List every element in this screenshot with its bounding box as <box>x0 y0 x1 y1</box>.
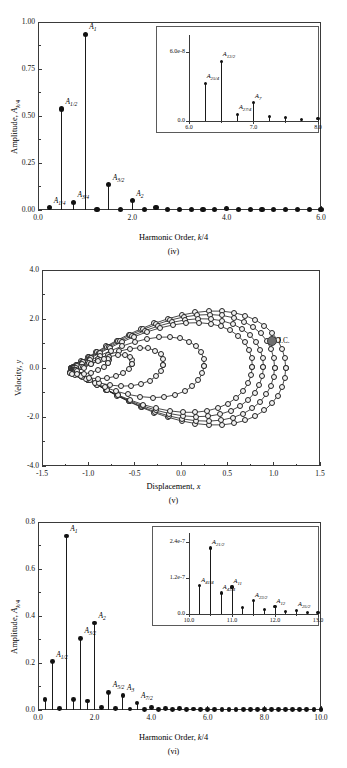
orbit-marker <box>81 371 87 377</box>
peak-label: A1/2 <box>56 650 68 660</box>
peak-label: A13/2 <box>223 50 235 59</box>
inset-x-tick-label: 7.0 <box>242 124 266 130</box>
y-tick-label: 4.0 <box>16 265 39 274</box>
y-tick <box>38 69 42 70</box>
data-point <box>142 707 147 712</box>
peak-label: A1 <box>70 524 77 534</box>
peak-label: A1 <box>89 22 96 32</box>
data-point <box>163 706 168 711</box>
orbit-marker <box>115 352 121 358</box>
inset-x-tick-label: 11.0 <box>220 617 244 623</box>
inset-stem <box>221 61 222 121</box>
x-tick-label: 0.0 <box>167 469 195 478</box>
initial-condition-marker <box>267 336 277 346</box>
stem <box>52 662 53 710</box>
peak-label: A11 <box>234 577 242 586</box>
orbit-marker <box>137 345 143 351</box>
orbit-marker <box>158 368 164 374</box>
orbit-marker <box>206 418 212 424</box>
orbit-marker <box>201 356 207 362</box>
inset-stem <box>253 601 254 615</box>
data-point <box>149 705 154 710</box>
orbit-marker <box>196 320 202 326</box>
peak-label: A21/2 <box>212 538 224 547</box>
orbit-marker <box>193 343 199 349</box>
orbit-marker <box>230 415 236 421</box>
orbit-marker <box>250 324 256 330</box>
orbit-marker <box>249 355 255 361</box>
inset-y-tick-label: 2.4e-7 <box>156 538 185 544</box>
orbit-marker <box>144 336 150 342</box>
inset-x-minor-tick <box>253 614 254 616</box>
orbit-marker <box>172 392 178 398</box>
y-tick <box>38 569 42 570</box>
data-point <box>142 207 147 212</box>
initial-condition-label: I.C. <box>279 337 290 345</box>
data-point <box>318 207 323 212</box>
x-tick-label: 2.0 <box>81 713 109 722</box>
y-tick-label: 2.0 <box>16 314 39 323</box>
y-tick-label: 0.6 <box>14 564 35 573</box>
inset-plot: 0.06.0e-86.07.08.0A25/4A13/2A27/4A7 <box>156 26 319 133</box>
y-tick <box>38 116 42 117</box>
data-point <box>255 707 260 712</box>
inset-x-tick-label: 6.0 <box>177 124 201 130</box>
stem <box>85 34 86 210</box>
data-point <box>307 207 312 212</box>
x-tick-label: 4.0 <box>213 213 241 222</box>
data-point <box>78 636 83 641</box>
x-tick-label: 10.0 <box>307 713 335 722</box>
orbit-marker <box>253 339 259 345</box>
orbit-marker <box>105 360 111 366</box>
inset-x-minor-tick <box>210 614 211 616</box>
orbit-marker <box>268 383 274 389</box>
inset-x-minor-tick <box>296 614 297 616</box>
data-point <box>200 207 205 212</box>
y-tick <box>38 663 42 664</box>
data-point <box>191 707 196 712</box>
orbit-marker <box>257 347 263 353</box>
figure-page: 0.000.250.500.751.000.02.04.06.0A1/4A1/2… <box>0 0 347 768</box>
peak-label: A25/2 <box>298 600 310 609</box>
orbit-marker <box>156 334 162 340</box>
data-point <box>205 707 210 712</box>
orbit-marker <box>275 393 281 399</box>
inset-data-point <box>252 101 255 104</box>
orbit-marker <box>118 383 124 389</box>
peak-label: A2 <box>99 611 106 621</box>
data-point <box>64 534 69 539</box>
inset-y-tick <box>186 542 189 543</box>
inset-y-tick-label: 1.2e-7 <box>156 574 185 580</box>
data-point <box>50 659 55 664</box>
orbit-marker <box>241 319 247 325</box>
data-point <box>128 707 133 712</box>
y-minor-tick <box>38 92 41 93</box>
y-axis-label-iv: Amplitude, Ak/4 <box>10 100 21 154</box>
orbit-marker <box>167 408 173 414</box>
data-point <box>170 707 175 712</box>
y-minor-tick <box>38 545 41 546</box>
stem <box>80 638 81 710</box>
y-minor-tick <box>38 139 41 140</box>
inset-data-point <box>284 116 287 119</box>
orbit-marker <box>279 384 285 390</box>
y-tick <box>38 616 42 617</box>
data-point <box>276 707 281 712</box>
stem <box>66 536 67 710</box>
inset-x-minor-tick <box>285 121 286 123</box>
y-tick <box>38 163 42 164</box>
data-point <box>248 207 253 212</box>
inset-data-point <box>204 82 207 85</box>
data-point <box>304 707 309 712</box>
peak-label: A27/4 <box>239 103 251 112</box>
orbit-marker <box>107 382 113 388</box>
data-point <box>113 706 118 711</box>
orbit-marker <box>239 326 245 332</box>
spectrum-plot-iv: 0.000.250.500.751.000.02.04.06.0A1/4A1/2… <box>38 22 321 210</box>
data-point <box>295 207 300 212</box>
x-axis-label-vi: Harmonic Order, k/4 <box>0 733 347 742</box>
x-tick-label: 0.5 <box>213 469 241 478</box>
inset-stem <box>253 103 254 121</box>
inset-y-axis <box>189 35 190 121</box>
y-tick <box>38 522 42 523</box>
